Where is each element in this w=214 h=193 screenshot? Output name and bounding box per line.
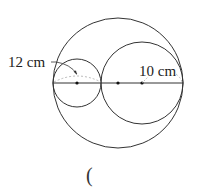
answer-blank-paren: (: [86, 164, 93, 187]
center-dot-small: [75, 81, 78, 84]
arrowhead-icon: [74, 71, 78, 76]
left-measure-label: 12 cm: [8, 54, 45, 70]
small-diameter-dashed-arc: [54, 76, 101, 82]
right-measure-label: 10 cm: [139, 63, 176, 79]
circles-diagram: 12 cm 10 cm (: [0, 0, 214, 193]
center-dot-large: [116, 81, 119, 84]
right-end-dashed-arc: [176, 74, 182, 82]
